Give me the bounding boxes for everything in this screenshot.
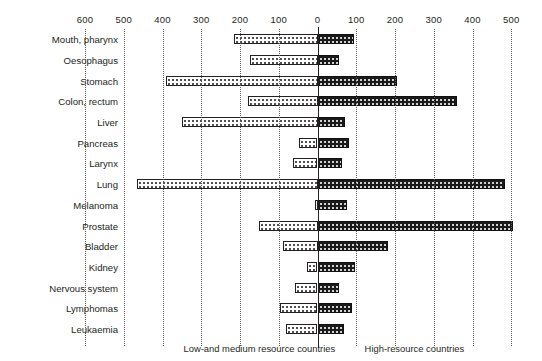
footer-caption-low-medium-resource: Low-and medium resource countries: [184, 343, 336, 354]
bar-high-resource: [318, 283, 339, 293]
bar-low-medium-resource: [248, 96, 318, 106]
chart-row: Nervous system: [0, 277, 542, 298]
bar-low-medium-resource: [137, 179, 317, 189]
gridline: [395, 29, 396, 346]
bar-high-resource: [318, 55, 339, 65]
bar-low-medium-resource: [250, 55, 318, 65]
axis-tick-label: 200: [232, 14, 248, 25]
chart-row: Leukaemia: [0, 319, 542, 340]
bar-high-resource: [318, 138, 349, 148]
chart-row: Larynx: [0, 153, 542, 174]
bar-low-medium-resource: [293, 158, 317, 168]
category-label-holder: Colon, rectum: [0, 91, 122, 112]
footer-caption-high-resource: High-resource countries: [365, 343, 465, 354]
axis-tick-label: 500: [116, 14, 132, 25]
category-label-holder: Pancreas: [0, 132, 122, 153]
axis-tick-label: 100: [271, 14, 287, 25]
bar-high-resource: [318, 221, 514, 231]
category-label-holder: Leukaemia: [0, 319, 122, 340]
gridline: [85, 29, 86, 346]
bar-high-resource: [318, 200, 347, 210]
gridline: [356, 29, 357, 346]
bar-low-medium-resource: [295, 283, 317, 293]
bar-low-medium-resource: [283, 241, 318, 251]
chart-rows: Mouth, pharynxOesophagusStomachColon, re…: [0, 29, 542, 339]
bar-high-resource: [318, 179, 506, 189]
chart-row: Stomach: [0, 70, 542, 91]
bar-high-resource: [318, 117, 346, 127]
category-label-holder: Liver: [0, 112, 122, 133]
chart-row: Mouth, pharynx: [0, 29, 542, 50]
category-label: Oesophagus: [12, 55, 122, 66]
category-label: Lung: [12, 179, 122, 190]
bar-high-resource: [318, 262, 356, 272]
category-label: Stomach: [12, 75, 122, 86]
gridline: [473, 29, 474, 346]
bar-high-resource: [318, 324, 344, 334]
chart-row: Liver: [0, 112, 542, 133]
axis-tick-label: 400: [154, 14, 170, 25]
category-label-holder: Kidney: [0, 257, 122, 278]
chart-footer-captions: Low-and medium resource countries High-r…: [0, 343, 542, 359]
chart-row: Lymphomas: [0, 298, 542, 319]
bar-low-medium-resource: [286, 324, 318, 334]
category-label: Kidney: [12, 261, 122, 272]
category-label: Prostate: [12, 220, 122, 231]
chart-row: Kidney: [0, 257, 542, 278]
axis-tick-label: 200: [387, 14, 403, 25]
bar-low-medium-resource: [299, 138, 317, 148]
category-label: Nervous system: [12, 282, 122, 293]
category-label-holder: Lung: [0, 174, 122, 195]
gridline: [511, 29, 512, 346]
bar-high-resource: [318, 96, 458, 106]
category-label: Larynx: [12, 158, 122, 169]
axis-tick-label: 600: [77, 14, 93, 25]
chart-row: Oesophagus: [0, 50, 542, 71]
gridline: [201, 29, 202, 346]
category-label: Mouth, pharynx: [12, 34, 122, 45]
category-label-holder: Mouth, pharynx: [0, 29, 122, 50]
axis-tick-label: 300: [426, 14, 442, 25]
gridline: [124, 29, 125, 346]
axis-tick-label: 400: [464, 14, 480, 25]
gridline: [434, 29, 435, 346]
bar-high-resource: [318, 158, 342, 168]
bar-high-resource: [318, 34, 355, 44]
axis-tick-label: 0: [315, 14, 320, 25]
chart-row: Colon, rectum: [0, 91, 542, 112]
category-label-holder: Bladder: [0, 236, 122, 257]
category-label: Pancreas: [12, 137, 122, 148]
bar-low-medium-resource: [234, 34, 317, 44]
axis-tick-label: 300: [193, 14, 209, 25]
chart-row: Lung: [0, 174, 542, 195]
axis-tick-label: 100: [348, 14, 364, 25]
category-label-holder: Prostate: [0, 215, 122, 236]
category-label: Colon, rectum: [12, 96, 122, 107]
category-label-holder: Larynx: [0, 153, 122, 174]
category-label-holder: Lymphomas: [0, 298, 122, 319]
category-label-holder: Melanoma: [0, 195, 122, 216]
chart-row: Prostate: [0, 215, 542, 236]
chart-row: Bladder: [0, 236, 542, 257]
bidirectional-bar-chart: 6005004003002001000100200300400500 Mouth…: [0, 0, 542, 361]
category-label: Melanoma: [12, 199, 122, 210]
axis-tick-label: 500: [503, 14, 519, 25]
axis-tick-labels: 6005004003002001000100200300400500: [0, 14, 542, 28]
bar-low-medium-resource: [166, 76, 317, 86]
chart-row: Pancreas: [0, 132, 542, 153]
category-label: Bladder: [12, 241, 122, 252]
category-label-holder: Stomach: [0, 70, 122, 91]
chart-row: Melanoma: [0, 195, 542, 216]
gridline: [240, 29, 241, 346]
bar-low-medium-resource: [280, 303, 318, 313]
category-label: Leukaemia: [12, 323, 122, 334]
category-label-holder: Nervous system: [0, 277, 122, 298]
category-label: Liver: [12, 117, 122, 128]
gridline: [163, 29, 164, 346]
category-label-holder: Oesophagus: [0, 50, 122, 71]
bar-high-resource: [318, 303, 353, 313]
bar-high-resource: [318, 241, 389, 251]
bar-low-medium-resource: [307, 262, 317, 272]
bar-low-medium-resource: [259, 221, 317, 231]
zero-axis-line: [318, 27, 319, 348]
